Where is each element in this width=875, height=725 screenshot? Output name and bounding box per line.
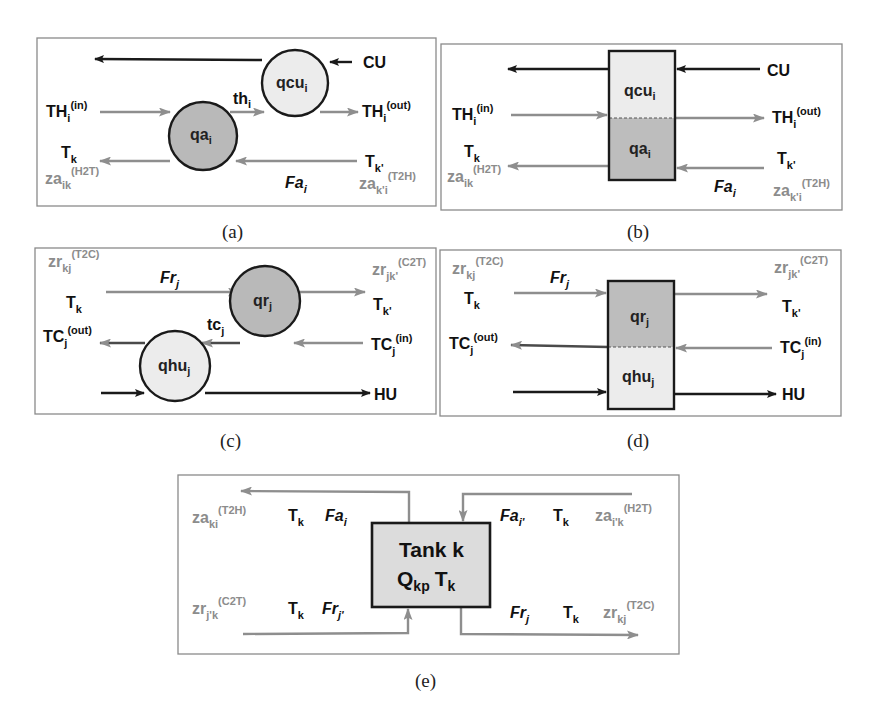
- cu-label: CU: [767, 62, 790, 79]
- figure-canvas: qai qcui CU thi THi(in) THi(out) Tk Tk' …: [0, 0, 875, 725]
- panel-d: qrj qhuj zrkj(T2C) zrjk'(C2T) Frj Tk Tk'…: [440, 250, 841, 416]
- panel-b: qcui qai CU THi(in) THi(out) Tk Tk' zaik…: [441, 44, 842, 210]
- caption-b: (b): [627, 221, 649, 243]
- panel-c: qrj qhuj zrkj(T2C) zrjk'(C2T) Frj Tk Tk'…: [35, 248, 436, 414]
- hu-label: HU: [374, 386, 397, 403]
- tank-node: [372, 523, 490, 607]
- caption-e: (e): [415, 670, 436, 692]
- panel-e: Tank k QkpTk zaki(T2H) Tk Fai Fai' Tk za…: [178, 475, 679, 654]
- hu-label: HU: [782, 386, 805, 403]
- cu-outlet-arrow: [95, 59, 262, 60]
- caption-d: (d): [627, 430, 649, 452]
- caption-c: (c): [220, 430, 241, 452]
- panel-a: qai qcui CU thi THi(in) THi(out) Tk Tk' …: [37, 38, 436, 206]
- cu-label: CU: [363, 54, 386, 71]
- tank-label: Tank k: [399, 538, 464, 561]
- caption-a: (a): [222, 221, 243, 243]
